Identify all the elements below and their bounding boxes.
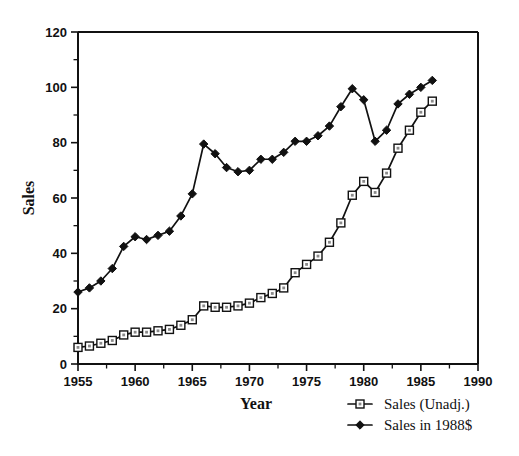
data-point-marker-core [328,241,331,244]
data-point-marker-core [202,305,205,308]
data-point-marker-filled-diamond [142,235,150,243]
data-point-marker-filled-diamond [234,168,242,176]
data-point-marker-core [397,147,400,150]
y-tick-label: 20 [53,301,67,316]
data-point-marker-core [271,292,274,295]
y-tick-label: 0 [60,357,67,372]
data-point-marker-filled-diamond [302,137,310,145]
x-tick-label: 1975 [292,374,321,389]
y-tick-label: 60 [53,191,67,206]
data-point-marker-core [408,129,411,132]
data-point-marker-core [122,334,125,337]
x-tick-label: 1970 [235,374,264,389]
data-point-marker-core [362,180,365,183]
data-point-marker-filled-diamond [154,231,162,239]
data-point-marker-core [157,329,160,332]
data-point-marker-core [88,345,91,348]
y-tick-label: 120 [45,25,67,40]
y-tick-label: 100 [45,80,67,95]
y-tick-label: 40 [53,246,67,261]
data-point-marker-core [191,318,194,321]
data-point-marker-filled-diamond [85,284,93,292]
data-point-marker-core [385,172,388,175]
axes: 0204060801001201955196019651970197519801… [45,25,492,390]
data-point-marker-core [237,305,240,308]
data-point-marker-core [259,296,262,299]
x-axis-title: Year [240,395,272,412]
data-point-marker-filled-diamond [417,83,425,91]
data-point-marker-core [282,287,285,290]
data-point-marker-core [145,331,148,334]
data-point-marker-core [294,271,297,274]
data-point-marker-filled-diamond [74,288,82,296]
legend-item[interactable]: Sales in 1988$ [348,417,473,433]
data-point-marker-filled-diamond [356,421,364,429]
data-point-marker-core [374,191,377,194]
data-point-marker-core [168,328,171,331]
x-tick-label: 1980 [349,374,378,389]
data-point-marker-core [99,342,102,345]
data-point-marker-core [179,324,182,327]
data-point-marker-core [248,302,251,305]
data-point-marker-core [225,306,228,309]
data-point-marker-core [134,331,137,334]
data-point-marker-filled-diamond [428,76,436,84]
legend-item[interactable]: Sales (Unadj.) [348,396,470,413]
data-point-marker-core [431,100,434,103]
axis-frame-left-bottom [78,32,478,364]
data-series [74,76,437,351]
data-point-marker-core [359,403,362,406]
x-tick-label: 1955 [64,374,93,389]
series-2 [74,76,437,296]
data-point-marker-filled-diamond [268,155,276,163]
y-tick-label: 80 [53,135,67,150]
legend-label: Sales in 1988$ [384,417,473,433]
data-point-marker-core [111,339,114,342]
x-tick-label: 1960 [121,374,150,389]
x-tick-label: 1985 [406,374,435,389]
data-point-marker-core [305,263,308,266]
chart-legend: Sales (Unadj.)Sales in 1988$ [348,396,473,433]
data-point-marker-core [77,346,80,349]
chart-figure: 0204060801001201955196019651970197519801… [0,0,519,456]
y-axis-title: Sales [20,181,37,216]
x-tick-label: 1965 [178,374,207,389]
data-point-marker-core [317,255,320,258]
data-point-marker-core [351,194,354,197]
data-point-marker-core [339,222,342,225]
data-point-marker-core [419,111,422,114]
legend-label: Sales (Unadj.) [384,396,470,413]
data-point-marker-core [214,306,217,309]
x-tick-label: 1990 [464,374,493,389]
data-point-marker-filled-diamond [337,103,345,111]
sales-line-chart: 0204060801001201955196019651970197519801… [0,0,519,456]
data-point-marker-filled-diamond [188,190,196,198]
